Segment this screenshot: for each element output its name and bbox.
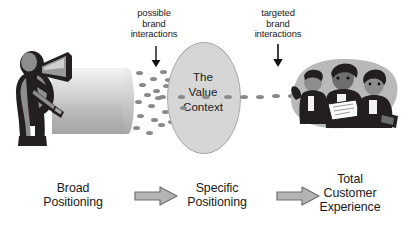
interaction-dot — [150, 77, 157, 81]
targeted-interaction-dot — [256, 95, 264, 99]
interaction-dot — [153, 89, 160, 93]
broadcast-cylinder-cap — [122, 68, 134, 134]
interaction-dot — [139, 83, 146, 87]
interaction-dot — [144, 93, 151, 97]
interaction-dot — [136, 71, 143, 75]
annotation-targeted-brand-interactions: targeted brand interactions — [235, 8, 321, 40]
interaction-dot — [178, 95, 185, 99]
interaction-dot — [155, 96, 162, 100]
stage-label-broad-positioning: Broad Positioning — [16, 182, 130, 210]
annotation-possible-brand-interactions: possible brand interactions — [111, 8, 197, 40]
interaction-dot — [160, 70, 167, 74]
interaction-dot — [137, 114, 144, 118]
stage-label-total-customer-experience: Total Customer Experience — [296, 173, 404, 215]
interaction-dot — [158, 123, 165, 127]
targeted-interaction-dot — [240, 95, 248, 99]
interaction-dot — [151, 118, 158, 122]
down-arrow-icon-possible — [146, 46, 166, 68]
business-audience-illustration — [284, 56, 402, 136]
diagram-canvas: possible brand interactions targeted bra… — [0, 0, 408, 231]
targeted-interaction-dot — [272, 94, 280, 98]
interaction-dot — [133, 126, 140, 130]
interaction-dot — [148, 104, 155, 108]
interaction-dot — [135, 100, 142, 104]
stage-label-specific-positioning: Specific Positioning — [160, 182, 274, 210]
megaphone-speaker-illustration — [6, 48, 80, 148]
interaction-dot — [180, 106, 187, 110]
value-context-label: The Value Context — [167, 70, 239, 114]
interaction-dot — [202, 95, 210, 99]
interaction-dot — [146, 131, 153, 135]
interaction-dot — [224, 95, 232, 99]
